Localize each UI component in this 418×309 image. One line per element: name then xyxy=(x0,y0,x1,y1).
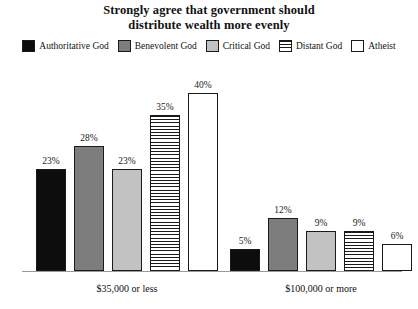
legend-item-label: Benevolent God xyxy=(135,41,197,52)
bar-group-100000-or-more: 5%12%9%9%6% xyxy=(230,75,412,271)
bar-slot: 5% xyxy=(230,75,260,271)
bar-slot: 12% xyxy=(268,75,298,271)
bar-atheist xyxy=(188,93,218,271)
bar-authoritative-god xyxy=(230,249,260,271)
legend-swatch-icon xyxy=(279,40,292,52)
bar-value-label: 28% xyxy=(80,133,97,144)
bar-slot: 9% xyxy=(306,75,336,271)
legend-swatch-icon xyxy=(118,40,131,52)
legend-swatch-icon xyxy=(206,40,219,52)
legend-item-label: Distant God xyxy=(296,41,342,52)
legend-item-label: Authoritative God xyxy=(39,41,108,52)
bar-slot: 40% xyxy=(188,75,218,271)
legend-item-label: Critical God xyxy=(223,41,270,52)
bar-distant-god xyxy=(344,231,374,271)
x-axis-label-group-0: $35,000 or less xyxy=(36,283,218,295)
bar-value-label: 40% xyxy=(194,80,211,91)
bar-authoritative-god xyxy=(36,169,66,271)
bar-slot: 23% xyxy=(112,75,142,271)
bar-slot: 9% xyxy=(344,75,374,271)
bar-group-35000-or-less: 23%28%23%35%40% xyxy=(36,75,218,271)
bar-distant-god xyxy=(150,115,180,271)
x-axis-baseline xyxy=(22,271,402,272)
bar-slot: 35% xyxy=(150,75,180,271)
bar-value-label: 9% xyxy=(315,218,328,229)
chart-title-line-2: distribute wealth more evenly xyxy=(0,18,418,33)
legend-item-label: Atheist xyxy=(368,41,395,52)
chart-title: Strongly agree that government should di… xyxy=(0,3,418,33)
legend-swatch-icon xyxy=(22,40,35,52)
bar-value-label: 6% xyxy=(391,231,404,242)
x-axis-label-group-1: $100,000 or more xyxy=(230,283,412,295)
bar-value-label: 9% xyxy=(353,218,366,229)
plot-area: 23%28%23%35%40% 5%12%9%9%6% $35,000 or l… xyxy=(0,60,418,309)
bar-benevolent-god xyxy=(74,146,104,271)
legend-item: Critical God xyxy=(206,40,270,52)
bar-slot: 23% xyxy=(36,75,66,271)
chart-legend: Authoritative GodBenevolent GodCritical … xyxy=(0,40,418,52)
bar-slot: 6% xyxy=(382,75,412,271)
bar-value-label: 12% xyxy=(274,205,291,216)
legend-swatch-icon xyxy=(351,40,364,52)
legend-item: Distant God xyxy=(279,40,342,52)
bar-value-label: 5% xyxy=(239,236,252,247)
bar-atheist xyxy=(382,244,412,271)
legend-item: Atheist xyxy=(351,40,395,52)
legend-item: Benevolent God xyxy=(118,40,197,52)
bar-value-label: 35% xyxy=(156,102,173,113)
chart-title-line-1: Strongly agree that government should xyxy=(0,3,418,18)
bar-value-label: 23% xyxy=(118,156,135,167)
bar-critical-god xyxy=(112,169,142,271)
bar-slot: 28% xyxy=(74,75,104,271)
bar-critical-god xyxy=(306,231,336,271)
bar-value-label: 23% xyxy=(42,156,59,167)
bar-benevolent-god xyxy=(268,218,298,271)
legend-item: Authoritative God xyxy=(22,40,108,52)
bar-chart-figure: Strongly agree that government should di… xyxy=(0,0,418,309)
